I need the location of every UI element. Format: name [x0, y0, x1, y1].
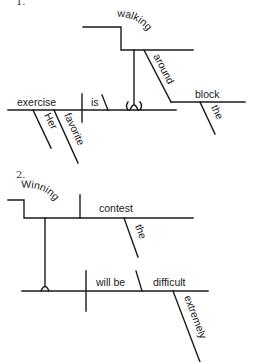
word-difficult: difficult — [153, 276, 186, 288]
word-contest: contest — [99, 202, 133, 214]
word-favorite: favorite — [62, 111, 87, 147]
word-her: Her — [42, 111, 60, 132]
stem-fork-icon — [130, 105, 138, 110]
word-is: is — [91, 96, 99, 108]
word-the-2: the — [133, 223, 149, 241]
word-winning: Winning — [21, 178, 62, 203]
word-block: block — [195, 88, 220, 100]
right-paren-icon — [140, 102, 142, 110]
diagram-2: 2. Winning contest the will be difficult… — [8, 169, 210, 362]
diagram-1: 1. walking around block the exercise is … — [8, 0, 245, 163]
left-paren-icon — [127, 102, 129, 110]
gerund-pedestal-line — [83, 27, 193, 50]
word-will-be: will be — [95, 276, 125, 288]
word-extremely: extremely — [182, 293, 210, 340]
word-exercise: exercise — [17, 96, 56, 108]
word-walking: walking — [116, 7, 155, 33]
predicate-slant-line — [102, 95, 108, 110]
sentence-diagram-canvas: 1. walking around block the exercise is … — [0, 0, 256, 362]
gerund-object-modifier-line — [124, 218, 138, 257]
diagram-number-1: 1. — [16, 0, 26, 7]
predicate-slant-line-2 — [136, 271, 142, 291]
word-the-1: the — [209, 103, 226, 121]
word-around: around — [151, 51, 177, 86]
